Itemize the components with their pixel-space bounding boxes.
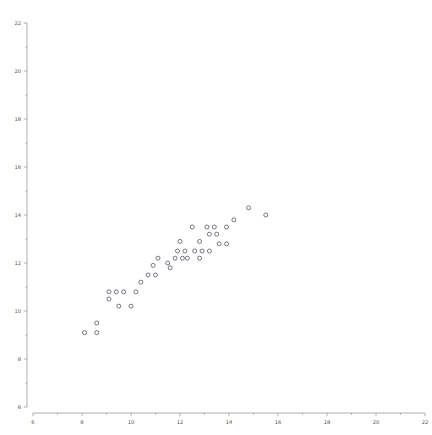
data-points-layer (82, 206, 267, 335)
data-point (139, 280, 143, 284)
data-point (95, 321, 99, 325)
x-tick-label: 12 (177, 419, 184, 425)
data-point (247, 206, 251, 210)
y-tick-label: 6 (18, 404, 21, 410)
data-point (200, 249, 204, 253)
data-point (151, 263, 155, 267)
data-point (95, 331, 99, 335)
y-tick-label: 20 (14, 68, 21, 74)
data-point (180, 256, 184, 260)
data-point (198, 239, 202, 243)
x-tick-label: 20 (373, 419, 380, 425)
data-point (156, 256, 160, 260)
y-tick-label: 22 (14, 20, 21, 26)
x-tick-label: 18 (324, 419, 331, 425)
x-tick-label: 10 (128, 419, 135, 425)
data-point (166, 261, 170, 265)
data-point (207, 232, 211, 236)
plot-canvas: 6810121416182022 6810121416182022 (0, 0, 432, 435)
x-tick-label: 6 (31, 419, 34, 425)
data-point (205, 225, 209, 229)
data-point (178, 239, 182, 243)
data-point (82, 331, 86, 335)
data-point (264, 213, 268, 217)
y-tick-label: 18 (14, 116, 21, 122)
data-point (185, 256, 189, 260)
data-point (217, 242, 221, 246)
scatter-plot-figure: 6810121416182022 6810121416182022 (0, 0, 432, 435)
data-point (193, 249, 197, 253)
data-point (225, 242, 229, 246)
data-point (176, 249, 180, 253)
data-point (154, 273, 158, 277)
data-point (168, 266, 172, 270)
data-point (173, 256, 177, 260)
y-axis: 6810121416182022 (14, 20, 27, 410)
y-tick-label: 14 (14, 212, 21, 218)
data-point (215, 232, 219, 236)
x-tick-label: 14 (226, 419, 233, 425)
x-tick-label: 8 (80, 419, 83, 425)
x-tick-label: 22 (422, 419, 429, 425)
data-point (198, 256, 202, 260)
data-point (183, 249, 187, 253)
data-point (134, 290, 138, 294)
data-point (129, 304, 133, 308)
x-tick-label: 16 (275, 419, 282, 425)
data-point (122, 290, 126, 294)
data-point (190, 225, 194, 229)
data-point (146, 273, 150, 277)
data-point (207, 249, 211, 253)
y-tick-label: 12 (14, 260, 21, 266)
data-point (114, 290, 118, 294)
y-tick-label: 16 (14, 164, 21, 170)
data-point (225, 225, 229, 229)
y-tick-label: 8 (18, 356, 21, 362)
data-point (232, 218, 236, 222)
data-point (107, 297, 111, 301)
data-point (117, 304, 121, 308)
y-tick-label: 10 (14, 308, 21, 314)
data-point (107, 290, 111, 294)
x-axis: 6810121416182022 (31, 413, 428, 425)
data-point (212, 225, 216, 229)
